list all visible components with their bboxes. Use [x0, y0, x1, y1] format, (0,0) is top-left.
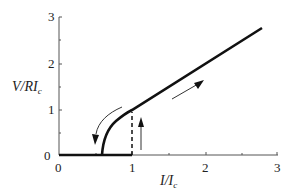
y-axis-label: V/RIc	[12, 79, 42, 96]
x-tick-0: 0	[55, 160, 62, 175]
curved-arrow-icon	[92, 134, 99, 145]
resistive-branch	[102, 28, 262, 155]
x-tick-2: 2	[202, 160, 209, 175]
y-tick-0: 0	[44, 148, 51, 163]
diagonal-arrow-icon	[194, 80, 204, 89]
diagonal-arrow-shaft	[172, 84, 198, 99]
x-tick-3: 3	[274, 160, 281, 175]
up-arrow-icon	[138, 117, 144, 127]
x-tick-1: 1	[129, 160, 136, 175]
y-tick-1: 1	[48, 102, 55, 117]
y-tick-2: 2	[48, 56, 55, 71]
x-axis-label: I/Ic	[159, 173, 177, 190]
y-tick-3: 3	[48, 9, 55, 24]
iv-chart: 3 2 1 0 0 1 2 3 V/RIc I/Ic	[0, 0, 292, 193]
